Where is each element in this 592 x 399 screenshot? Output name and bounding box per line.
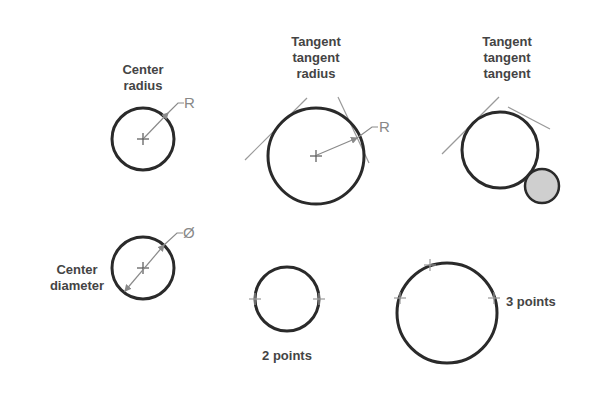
label-tangent-tangent-radius: Tangent tangent radius <box>281 34 351 82</box>
radius-dimension-label: R <box>379 119 390 135</box>
label-tangent-tangent-tangent: Tangent tangent tangent <box>472 34 542 82</box>
label-three-points: 3 points <box>506 294 576 310</box>
panel-center-radius <box>112 103 184 170</box>
panel-two-points <box>249 267 325 331</box>
radius-callout-line <box>168 103 184 113</box>
panel-tangent-tangent-radius <box>245 97 378 204</box>
radius-leader <box>144 113 168 138</box>
panel-center-diameter <box>112 233 183 299</box>
circle-two-points <box>255 267 319 331</box>
label-line: radius <box>113 78 173 94</box>
point-marker-icon <box>249 293 261 305</box>
tangent-reference-circle <box>525 169 559 203</box>
label-line: Tangent <box>281 34 351 50</box>
center-mark-icon <box>137 262 149 274</box>
circle-three-points <box>397 263 497 363</box>
label-line: tangent <box>281 50 351 66</box>
center-mark-icon <box>310 150 322 162</box>
radius-dimension-label: R <box>184 95 195 111</box>
label-center-diameter: Center diameter <box>42 262 112 294</box>
label-line: Center <box>42 262 112 278</box>
radius-callout-line <box>357 127 378 138</box>
point-marker-icon <box>488 292 500 304</box>
label-two-points: 2 points <box>252 348 322 364</box>
label-line: tangent <box>472 50 542 66</box>
diameter-dimension-label: Ø <box>183 225 195 241</box>
label-line: radius <box>281 66 351 82</box>
point-marker-icon <box>313 293 325 305</box>
diameter-callout-line <box>164 233 183 245</box>
label-line: diameter <box>42 278 112 294</box>
label-line: Tangent <box>472 34 542 50</box>
label-line: 3 points <box>506 294 576 310</box>
panel-three-points <box>394 259 500 363</box>
label-line: Center <box>113 62 173 78</box>
label-line: 2 points <box>252 348 322 364</box>
point-marker-icon <box>394 292 406 304</box>
label-center-radius: Center radius <box>113 62 173 94</box>
radius-leader <box>317 138 357 155</box>
label-line: tangent <box>472 66 542 82</box>
panel-tangent-tangent-tangent <box>442 97 559 203</box>
diameter-leader <box>125 245 164 291</box>
